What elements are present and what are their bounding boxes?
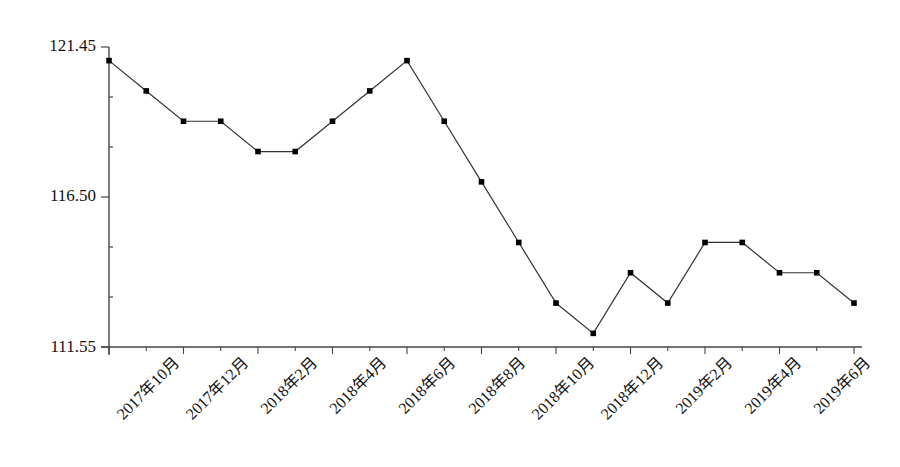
data-point-marker: [777, 270, 783, 276]
data-point-marker: [553, 300, 559, 306]
data-point-marker: [292, 149, 298, 155]
data-point-marker: [516, 240, 522, 246]
data-point-marker: [181, 118, 187, 124]
chart-axes: [101, 47, 862, 355]
y-tick-label: 116.50: [6, 186, 96, 206]
data-point-marker: [590, 331, 596, 337]
data-point-marker: [702, 240, 708, 246]
data-point-marker: [739, 240, 745, 246]
data-point-marker: [814, 270, 820, 276]
data-point-marker: [479, 179, 485, 185]
data-point-marker: [441, 118, 447, 124]
data-point-marker: [367, 88, 373, 94]
data-point-marker: [255, 149, 261, 155]
data-point-marker: [404, 58, 410, 64]
data-point-marker: [628, 270, 634, 276]
series-markers: [106, 58, 857, 336]
data-point-marker: [665, 300, 671, 306]
data-point-marker: [106, 58, 112, 64]
y-tick-label: 121.45: [6, 36, 96, 56]
data-point-marker: [330, 118, 336, 124]
series-line: [109, 61, 854, 334]
data-point-marker: [218, 118, 224, 124]
data-point-marker: [851, 300, 857, 306]
data-point-marker: [143, 88, 149, 94]
y-tick-label: 111.55: [6, 337, 96, 357]
